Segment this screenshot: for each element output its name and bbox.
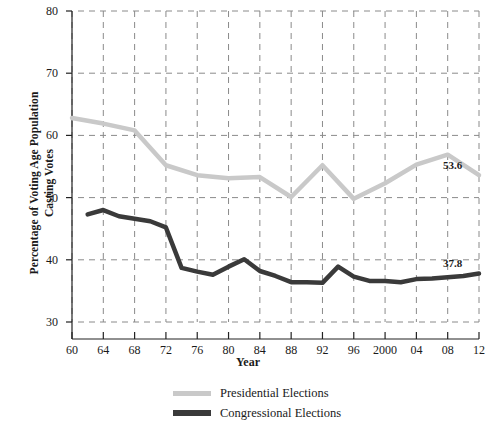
y-tick-label: 40 [28,254,58,266]
axis-lines [72,11,479,339]
y-tick-label: 50 [28,192,58,204]
y-axis-title: Percentage of Voting Age Population Cast… [27,53,57,313]
series-line-congressional [88,210,479,283]
legend-label-congressional: Congressional Elections [220,407,341,420]
y-tick-label: 80 [28,5,58,17]
x-axis-title: Year [0,355,496,370]
y-axis-title-line-1: Percentage of Voting Age Population [27,53,42,313]
chart-container: Percentage of Voting Age Population Cast… [0,0,496,429]
chart-legend: Presidential Elections Congressional Ele… [0,383,496,423]
x-tick-label: 12 [459,344,496,356]
legend-swatch-congressional [173,410,211,416]
y-tick-label: 60 [28,129,58,141]
y-axis-title-line-2: Casting Votes [42,53,57,313]
legend-swatch-presidential [173,391,211,396]
legend-item-presidential: Presidential Elections [0,383,496,403]
plot-area [0,0,496,355]
y-tick-label: 70 [28,67,58,79]
y-tick-label: 30 [28,316,58,328]
series-line-presidential [72,118,479,199]
legend-item-congressional: Congressional Elections [0,403,496,423]
value-annotation: 37.8 [443,257,462,269]
axis-ticks [66,11,479,339]
value-annotation: 53.6 [443,159,462,171]
series-lines [72,118,479,283]
legend-label-presidential: Presidential Elections [220,387,329,400]
